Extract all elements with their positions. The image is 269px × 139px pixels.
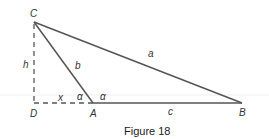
angle-alpha-interior-label: α [77,91,83,102]
vertex-d-label: D [30,108,37,119]
side-c-label: c [168,106,173,117]
side-b-label: b [75,60,81,71]
vertex-a-label: A [89,108,97,119]
segment-x-label: x [57,92,64,103]
triangle-diagram: C D A B a b c h x α α Figure 18 [0,0,269,139]
figure-caption: Figure 18 [124,125,170,137]
side-a-line [34,22,242,103]
height-h-label: h [23,59,29,70]
angle-alpha-exterior-label: α [100,91,106,102]
vertex-c-label: C [30,8,38,19]
side-a-label: a [148,48,154,59]
vertex-b-label: B [239,107,246,118]
